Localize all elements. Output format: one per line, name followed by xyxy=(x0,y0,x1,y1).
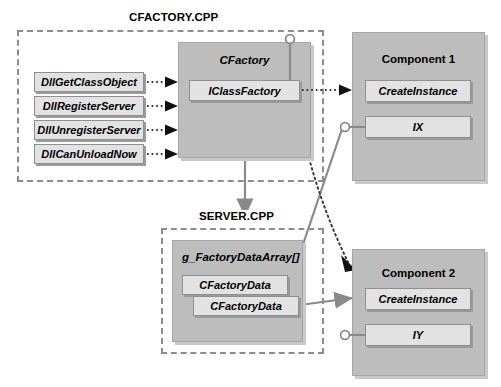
component1-createinstance[interactable]: CreateInstance xyxy=(365,80,471,102)
ix-label: IX xyxy=(413,121,423,133)
entry-point-dllcanunloadnow[interactable]: DllCanUnloadNow xyxy=(34,144,144,164)
region-label-server-cpp: SERVER.CPP xyxy=(196,210,277,222)
cfactory-title: CFactory xyxy=(179,54,310,66)
diagram-canvas: CFACTORY.CPP SERVER.CPP DllGetClassObjec… xyxy=(0,0,501,387)
createinstance-label: CreateInstance xyxy=(379,293,458,305)
iclassfactory-label: IClassFactory xyxy=(208,85,280,97)
cfactorydata-label: CFactoryData xyxy=(210,300,282,312)
component2-title: Component 2 xyxy=(353,267,484,279)
iclassfactory-box[interactable]: IClassFactory xyxy=(189,80,300,101)
entry-point-label: DllGetClassObject xyxy=(41,76,137,88)
component2-box[interactable]: Component 2 xyxy=(352,249,485,376)
entry-point-dllunregisterserver[interactable]: DllUnregisterServer xyxy=(34,120,144,140)
component2-createinstance[interactable]: CreateInstance xyxy=(365,288,471,310)
createinstance-label: CreateInstance xyxy=(379,85,458,97)
cfactorydata-label: CFactoryData xyxy=(199,279,271,291)
cfactorydata-entry-1[interactable]: CFactoryData xyxy=(182,275,288,295)
entry-point-label: DllUnregisterServer xyxy=(37,124,140,136)
factory-data-array-title: g_FactoryDataArray[] xyxy=(182,251,302,263)
entry-point-label: DllCanUnloadNow xyxy=(41,148,136,160)
component2-iy[interactable]: IY xyxy=(365,324,471,346)
component1-ix[interactable]: IX xyxy=(365,116,471,138)
region-label-cfactory-cpp: CFACTORY.CPP xyxy=(126,11,221,23)
entry-point-label: DllRegisterServer xyxy=(43,100,135,112)
iy-label: IY xyxy=(413,329,423,341)
cfactorydata-entry-2[interactable]: CFactoryData xyxy=(193,296,299,316)
component1-title: Component 1 xyxy=(353,53,484,65)
component1-box[interactable]: Component 1 xyxy=(352,32,485,181)
entry-point-dllregisterserver[interactable]: DllRegisterServer xyxy=(34,96,144,116)
entry-point-dllgetclassobject[interactable]: DllGetClassObject xyxy=(34,72,144,92)
